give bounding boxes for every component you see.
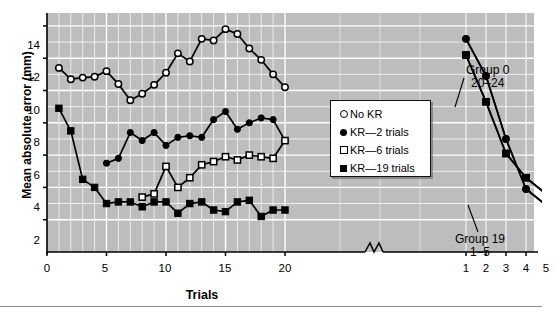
legend-item-kr-19: KR—19 trials xyxy=(337,159,430,177)
x-tick-20: 20 xyxy=(272,262,298,274)
y-tick-2: 2 xyxy=(10,234,40,246)
legend-label-kr-2: KR—2 trials xyxy=(350,126,409,138)
annotation-group-19-line2: 1–5 xyxy=(455,246,505,259)
filled-square-icon xyxy=(337,165,350,172)
legend-item-no-kr: No KR xyxy=(337,105,430,123)
legend-item-kr-2: KR—2 trials xyxy=(337,123,430,141)
x-tick-10: 10 xyxy=(152,262,178,274)
annotation-group-19: Group 19 1–5 xyxy=(455,233,505,260)
plot-area-retention xyxy=(442,13,534,252)
figure-bottom-rule xyxy=(0,306,542,307)
chart-legend: No KR KR—2 trials KR—6 trials KR—19 tria… xyxy=(330,100,431,177)
legend-label-kr-6: KR—6 trials xyxy=(350,144,409,156)
annotation-group-0-line1: Group 0 xyxy=(466,64,509,77)
x-tick-0: 0 xyxy=(34,262,60,274)
x-tick-15: 15 xyxy=(212,262,238,274)
legend-item-kr-6: KR—6 trials xyxy=(337,141,430,159)
annotation-group-0: Group 0 20–24 xyxy=(466,64,509,91)
open-circle-icon xyxy=(337,110,350,118)
y-axis-title: Mean absolute error (mm) xyxy=(20,40,34,210)
x-axis-title: Trials xyxy=(152,288,252,302)
plot-area-acquisition xyxy=(47,13,301,252)
annotation-group-19-line1: Group 19 xyxy=(455,233,505,246)
x-tick-5: 5 xyxy=(92,262,118,274)
filled-circle-icon xyxy=(337,129,350,136)
legend-label-kr-19: KR—19 trials xyxy=(350,162,415,174)
legend-label-no-kr: No KR xyxy=(350,108,382,120)
open-square-icon xyxy=(337,146,350,154)
x-tick-r5: 5 xyxy=(533,262,554,274)
annotation-group-0-line2: 20–24 xyxy=(466,77,509,90)
